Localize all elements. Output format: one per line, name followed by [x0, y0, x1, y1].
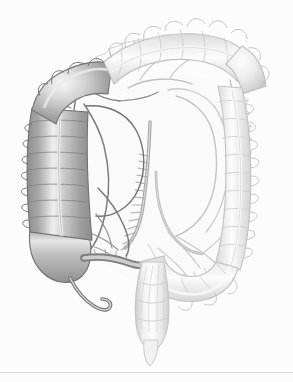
illustration-figure: Grayscale anatomical illustration of the…	[0, 0, 293, 382]
tonal-wash	[0, 0, 293, 382]
footer-divider-rule	[0, 372, 293, 373]
large-intestine-diagram	[0, 0, 293, 382]
